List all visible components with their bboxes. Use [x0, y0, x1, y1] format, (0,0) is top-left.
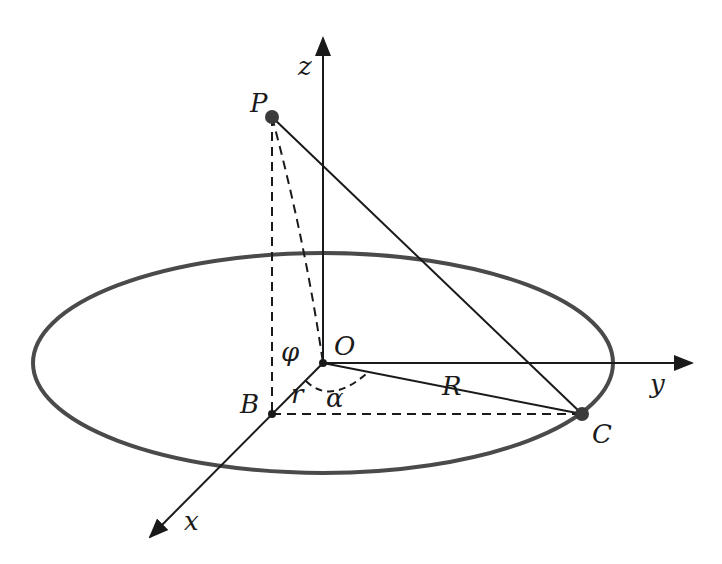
segment-PO-dashed: [272, 117, 323, 363]
label-x-axis: x: [184, 506, 199, 536]
label-angle-phi: φ: [281, 337, 300, 367]
label-point-B: B: [239, 389, 259, 419]
label-point-O: O: [334, 331, 355, 361]
label-point-P: P: [249, 88, 268, 118]
point-C: [575, 407, 589, 421]
segment-PC: [272, 117, 582, 414]
label-point-C: C: [592, 419, 612, 449]
label-radius-R: R: [441, 371, 462, 401]
label-small-r: r: [291, 379, 305, 409]
point-B: [268, 410, 276, 418]
label-z-axis: z: [297, 51, 312, 81]
point-O: [319, 359, 327, 367]
diagram-canvas: z y x P O B C R r α φ: [0, 0, 722, 564]
label-angle-alpha: α: [326, 383, 344, 413]
label-y-axis: y: [649, 369, 665, 399]
